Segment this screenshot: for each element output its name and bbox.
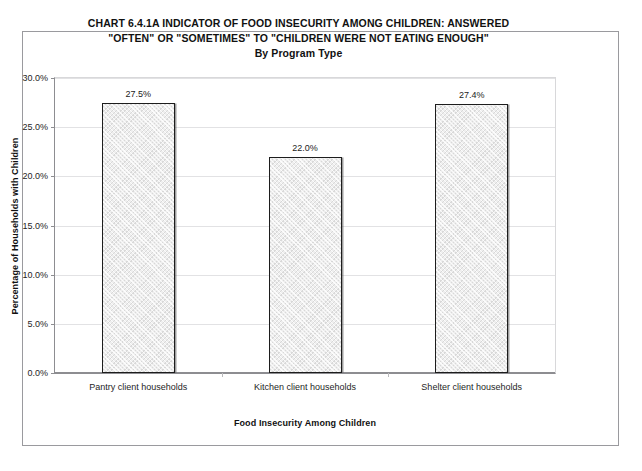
x-tick-mark xyxy=(222,373,223,377)
bar-2[interactable] xyxy=(269,157,342,373)
y-tick-mark xyxy=(51,226,55,227)
y-axis-title-label: Percentage of Households with Children xyxy=(10,137,20,314)
y-tick-mark xyxy=(51,78,55,79)
x-tick-mark xyxy=(388,373,389,377)
y-tick-mark xyxy=(51,324,55,325)
chart-title: CHART 6.4.1A INDICATOR OF FOOD INSECURIT… xyxy=(30,16,567,61)
y-tick-label: 5.0% xyxy=(27,319,48,329)
y-tick-mark xyxy=(51,176,55,177)
x-tick-label: Pantry client households xyxy=(89,382,187,392)
x-tick-label: Shelter client households xyxy=(421,382,522,392)
y-axis-title: Percentage of Households with Children xyxy=(8,77,22,374)
chart-title-line-2: "OFTEN" OR "SOMETIMES" TO "CHILDREN WERE… xyxy=(30,31,567,46)
bar-1[interactable] xyxy=(102,103,175,373)
bar-group: 27.5% xyxy=(102,78,175,373)
bar-value-label: 27.5% xyxy=(126,89,152,99)
bar-value-label: 22.0% xyxy=(292,143,318,153)
bar-3[interactable] xyxy=(435,104,508,373)
x-tick-label: Kitchen client households xyxy=(254,382,356,392)
chart-title-line-1: CHART 6.4.1A INDICATOR OF FOOD INSECURIT… xyxy=(30,16,567,31)
y-tick-mark xyxy=(51,275,55,276)
y-tick-mark xyxy=(51,127,55,128)
x-axis-title: Food Insecurity Among Children xyxy=(54,418,556,428)
chart-title-line-3: By Program Type xyxy=(30,46,567,61)
y-tick-label: 10.0% xyxy=(22,270,48,280)
y-tick-label: 25.0% xyxy=(22,122,48,132)
bar-value-label: 27.4% xyxy=(459,90,485,100)
bar-group: 27.4% xyxy=(435,78,508,373)
y-tick-mark xyxy=(51,373,55,374)
y-tick-label: 15.0% xyxy=(22,221,48,231)
bar-group: 22.0% xyxy=(269,78,342,373)
y-tick-label: 20.0% xyxy=(22,171,48,181)
y-tick-label: 0.0% xyxy=(27,368,48,378)
plot-area: 0.0%5.0%10.0%15.0%20.0%25.0%30.0%27.5%Pa… xyxy=(54,77,556,374)
y-tick-label: 30.0% xyxy=(22,73,48,83)
